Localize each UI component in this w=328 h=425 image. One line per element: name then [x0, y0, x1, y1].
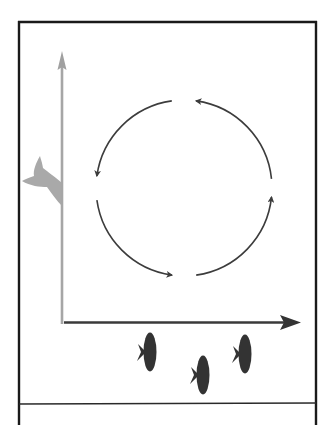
fish-body [239, 335, 252, 374]
cycle-arrow-top-right [196, 101, 271, 179]
cycle-arrow-top-left [97, 101, 172, 176]
cycle-arrow-bottom-right [196, 197, 271, 275]
cycle-arrow-bottom-left [97, 200, 172, 275]
fish-tail-icon [22, 156, 62, 206]
cycle [97, 101, 272, 275]
horizontal-axis-arrow [64, 315, 301, 330]
fish-body [197, 356, 210, 395]
diagram-canvas [0, 0, 328, 425]
fish-icon [232, 335, 252, 374]
fish-icon [137, 333, 157, 372]
fish-school [137, 333, 252, 395]
fish-icon [190, 356, 210, 395]
fish-body [144, 333, 157, 372]
frame-divider [19, 403, 316, 404]
